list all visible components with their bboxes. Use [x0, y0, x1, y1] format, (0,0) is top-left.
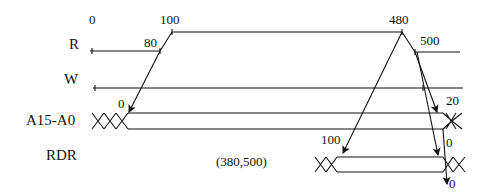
- signal-label-address: A15-A0: [26, 113, 75, 128]
- time-label-500: 500: [420, 34, 440, 47]
- delay-label-addr-end: 20: [446, 94, 459, 107]
- signal-label-r: R: [69, 37, 79, 52]
- time-label-80: 80: [144, 36, 157, 49]
- address-bus-waveform: [92, 113, 462, 129]
- delay-label-rdr-start: 100: [321, 133, 341, 146]
- rdr-bus-waveform: [315, 157, 465, 172]
- w-signal-waveform: [93, 85, 463, 91]
- delay-label-addr-start: 0: [118, 97, 125, 110]
- delay-label-rdr-end-1: 0: [446, 136, 453, 149]
- window-annotation: (380,500): [216, 155, 267, 168]
- time-label-480: 480: [389, 13, 409, 26]
- timing-arrows: [129, 32, 447, 184]
- time-label-0: 0: [89, 13, 96, 26]
- delay-label-rdr-end-2: 0: [449, 177, 456, 190]
- time-label-100: 100: [160, 13, 180, 26]
- signal-label-w: W: [64, 72, 78, 87]
- signal-label-rdr: RDR: [46, 148, 77, 163]
